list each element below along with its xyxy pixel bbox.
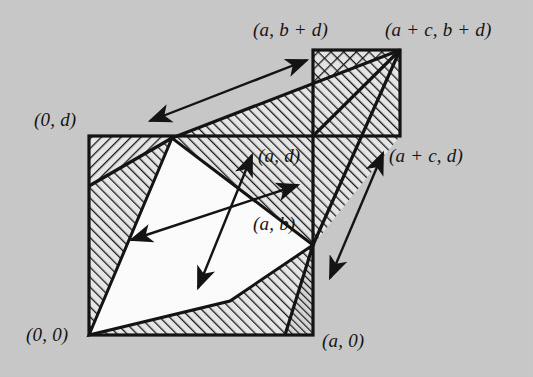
label-a-b-plus-d: (a, b + d) [253, 20, 328, 39]
label-a-plus-c-b-plus-d: (a + c, b + d) [385, 20, 492, 39]
label-a-plus-c-d: (a + c, d) [389, 146, 463, 165]
label-origin: (0, 0) [26, 325, 68, 344]
figure-canvas [0, 0, 533, 377]
label-a-b: (a, b) [253, 214, 295, 233]
label-a-d: (a, d) [258, 146, 300, 165]
label-zero-d: (0, d) [34, 110, 76, 129]
determinant-proof-figure: (a, b + d) (a + c, b + d) (0, d) (a + c,… [0, 0, 533, 377]
label-a-zero: (a, 0) [322, 331, 364, 350]
